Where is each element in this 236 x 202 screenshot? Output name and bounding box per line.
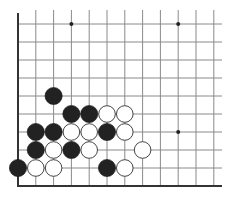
white-stone-icon: [117, 124, 134, 141]
white-stone-icon: [45, 160, 62, 177]
white-stone-icon: [81, 124, 98, 141]
black-stone-icon: [63, 141, 80, 158]
white-stone-icon: [134, 142, 151, 159]
white-stone-icon: [81, 142, 98, 159]
white-stone-icon: [117, 160, 134, 177]
white-stone-icon: [117, 106, 134, 123]
white-stone-icon: [99, 106, 116, 123]
black-stone-icon: [27, 141, 44, 158]
star-point-icon: [176, 22, 180, 26]
white-stone-icon: [45, 142, 62, 159]
go-board-diagram: [0, 0, 236, 202]
black-stone-icon: [98, 159, 115, 176]
black-stone-icon: [45, 123, 62, 140]
black-stone-icon: [27, 123, 44, 140]
white-stone-icon: [28, 160, 45, 177]
black-stone-icon: [81, 105, 98, 122]
black-stone-icon: [9, 159, 26, 176]
black-stone-icon: [45, 87, 62, 104]
stones-layer: [9, 87, 151, 176]
star-point-icon: [69, 22, 73, 26]
star-point-icon: [176, 130, 180, 134]
black-stone-icon: [63, 105, 80, 122]
white-stone-icon: [63, 124, 80, 141]
black-stone-icon: [98, 123, 115, 140]
